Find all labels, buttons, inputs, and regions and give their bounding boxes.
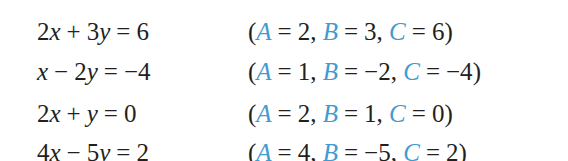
comma: , [391,139,397,161]
value-b: 3 [364,18,377,45]
constant: 0 [124,100,137,127]
equals-sign: = [420,58,446,85]
value-c: 0 [432,100,445,127]
close-paren: ) [459,139,467,161]
equals-sign: = [406,18,432,45]
x-coefficient: 4 [37,139,50,161]
y-coefficient: 5 [87,139,100,161]
equation-row: x−2y=−4 (A=1, B=−2, C=−4) [0,52,568,92]
equation-row: 2x+y=0 (A=2, B=1, C=0) [0,94,568,134]
equals-sign: = [110,18,136,45]
linear-equation: 2x+3y=6 [37,12,149,52]
equals-sign: = [98,100,124,127]
linear-equation: 2x+y=0 [37,94,136,134]
equals-sign: = [338,100,364,127]
label-b: B [323,58,338,85]
constant: −4 [124,58,151,85]
coefficient-tuple: (A=1, B=−2, C=−4) [248,52,481,92]
y-variable: y [87,100,98,127]
label-a: A [256,139,271,161]
equals-sign: = [406,100,432,127]
operator: − [61,139,87,161]
close-paren: ) [444,18,452,45]
equals-sign: = [338,18,364,45]
linear-equation: x−2y=−4 [37,52,151,92]
y-variable: y [87,58,98,85]
label-c: C [403,58,420,85]
equals-sign: = [272,100,298,127]
constant: 6 [136,18,149,45]
value-a: 1 [298,58,311,85]
label-c: C [389,100,406,127]
close-paren: ) [473,58,481,85]
value-c: 2 [446,139,459,161]
comma: , [310,100,316,127]
comma: , [310,139,316,161]
value-a: 2 [298,100,311,127]
coefficient-tuple: (A=4, B=−5, C=2) [248,133,467,161]
x-coefficient: 2 [37,18,50,45]
value-b: −5 [364,139,391,161]
comma: , [391,58,397,85]
x-variable: x [50,139,61,161]
operator: + [61,18,87,45]
label-b: B [323,100,338,127]
x-variable: x [50,100,61,127]
value-b: −2 [364,58,391,85]
value-c: 6 [432,18,445,45]
constant: 2 [136,139,149,161]
close-paren: ) [444,100,452,127]
equals-sign: = [338,58,364,85]
value-c: −4 [446,58,473,85]
linear-equation: 4x−5y=2 [37,133,149,161]
y-coefficient: 3 [87,18,100,45]
operator: − [48,58,74,85]
x-variable: x [50,18,61,45]
equals-sign: = [272,58,298,85]
equals-sign: = [272,139,298,161]
equals-sign: = [272,18,298,45]
label-b: B [323,18,338,45]
coefficient-tuple: (A=2, B=3, C=6) [248,12,453,52]
label-a: A [256,18,271,45]
label-a: A [256,58,271,85]
label-b: B [323,139,338,161]
label-c: C [403,139,420,161]
y-variable: y [99,139,110,161]
x-coefficient: 2 [37,100,50,127]
x-variable: x [37,58,48,85]
equals-sign: = [98,58,124,85]
value-b: 1 [364,100,377,127]
comma: , [377,100,383,127]
equals-sign: = [420,139,446,161]
label-c: C [389,18,406,45]
coefficient-tuple: (A=2, B=1, C=0) [248,94,453,134]
operator: + [61,100,87,127]
y-coefficient: 2 [74,58,87,85]
comma: , [377,18,383,45]
equals-sign: = [110,139,136,161]
equals-sign: = [338,139,364,161]
comma: , [310,58,316,85]
label-a: A [256,100,271,127]
y-variable: y [99,18,110,45]
comma: , [310,18,316,45]
equation-row: 2x+3y=6 (A=2, B=3, C=6) [0,12,568,52]
equation-row: 4x−5y=2 (A=4, B=−5, C=2) [0,133,568,161]
value-a: 4 [298,139,311,161]
value-a: 2 [298,18,311,45]
